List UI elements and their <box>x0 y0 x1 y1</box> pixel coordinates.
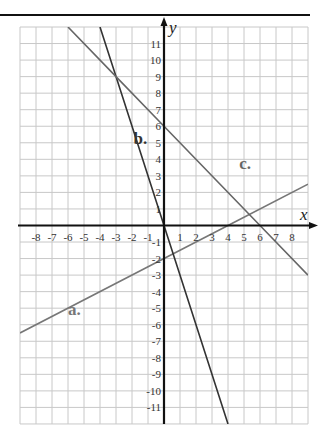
x-axis-label: x <box>299 205 308 224</box>
x-tick-label: -3 <box>111 231 121 243</box>
y-tick-label: 1 <box>156 203 162 215</box>
y-tick-label: -9 <box>152 368 162 380</box>
x-tick-label: 4 <box>225 231 231 243</box>
y-axis-label: y <box>167 18 177 37</box>
x-tick-label: -2 <box>127 231 136 243</box>
x-tick-label: 1 <box>177 231 183 243</box>
y-tick-label: 10 <box>150 54 162 66</box>
y-tick-label: -4 <box>152 286 162 298</box>
y-tick-label: -5 <box>152 302 162 314</box>
x-tick-label: -4 <box>95 231 105 243</box>
y-tick-label: 8 <box>156 87 162 99</box>
x-tick-label: 2 <box>193 231 199 243</box>
y-tick-label: -8 <box>152 352 162 364</box>
x-tick-label: -5 <box>79 231 89 243</box>
x-tick-label: 3 <box>209 231 215 243</box>
x-tick-label: 7 <box>273 231 279 243</box>
x-tick-label: -8 <box>31 231 41 243</box>
y-tick-label: -3 <box>152 269 162 281</box>
y-tick-label: -2 <box>152 253 161 265</box>
y-tick-label: 5 <box>156 137 162 149</box>
y-tick-label: 3 <box>156 170 162 182</box>
y-tick-label: -10 <box>146 385 161 397</box>
series-label-c: c. <box>239 154 251 173</box>
y-axis-arrow-icon <box>161 17 168 26</box>
y-tick-label: -11 <box>147 401 161 413</box>
series-label-b: b. <box>134 129 148 148</box>
y-tick-label: -7 <box>152 335 162 347</box>
x-tick-label: -6 <box>63 231 73 243</box>
coordinate-plane: xy -8-7-6-5-4-3-2-112345678-11-10-9-8-7-… <box>0 0 326 447</box>
y-tick-label: 9 <box>156 71 162 83</box>
y-tick-label: 6 <box>156 120 162 132</box>
y-tick-label: 2 <box>156 186 162 198</box>
y-tick-label: 4 <box>156 153 162 165</box>
y-tick-label: 7 <box>156 104 162 116</box>
y-tick-label: 11 <box>150 38 161 50</box>
x-tick-label: -7 <box>47 231 57 243</box>
x-axis-arrow-icon <box>309 222 318 229</box>
x-tick-label: 5 <box>241 231 247 243</box>
series-label-a: a. <box>68 300 81 319</box>
axes: xy <box>18 17 318 424</box>
x-tick-label: 6 <box>257 231 263 243</box>
y-tick-label: -6 <box>152 319 162 331</box>
y-tick-label: -1 <box>152 236 161 248</box>
x-tick-label: 8 <box>289 231 295 243</box>
